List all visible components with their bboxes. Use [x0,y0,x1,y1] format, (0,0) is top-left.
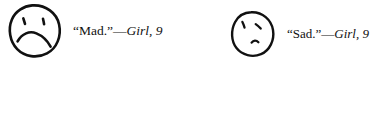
sad-mouth-icon [252,41,259,43]
mad-face-outline [10,5,60,56]
mad-face-drawing [6,2,64,62]
attribution-mad: Girl, 9 [127,23,163,38]
quote-text-sad: “Sad.” [287,26,321,41]
mad-right-eye-icon [43,19,44,24]
mad-mouth-icon [18,32,51,46]
sad-face-drawing [229,9,277,59]
mad-left-eye-icon [23,18,25,24]
attribution-sad: Girl, 9 [334,26,369,41]
em-dash-mad: — [113,23,127,38]
sad-right-eye-icon [256,24,261,29]
caption-sad: “Sad.”—Girl, 9 [287,27,369,41]
sad-face-outline [232,12,273,56]
figure-item-sad: “Sad.”—Girl, 9 [229,9,369,59]
caption-mad: “Mad.”—Girl, 9 [73,24,163,40]
em-dash-sad: — [321,26,334,41]
sad-left-eye-icon [242,22,244,28]
quote-text-mad: “Mad.” [73,23,113,38]
figure-canvas: “Mad.”—Girl, 9 “Sad.”—Girl, 9 [0,0,379,119]
figure-item-mad: “Mad.”—Girl, 9 [6,2,163,62]
